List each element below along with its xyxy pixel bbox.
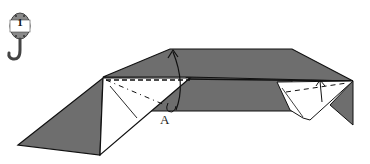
origami-diagram: [0, 0, 370, 164]
step-number: 1: [13, 16, 27, 28]
body-upper-band: [103, 49, 353, 81]
left-flap: [18, 78, 103, 155]
point-a-label: A: [160, 112, 169, 128]
